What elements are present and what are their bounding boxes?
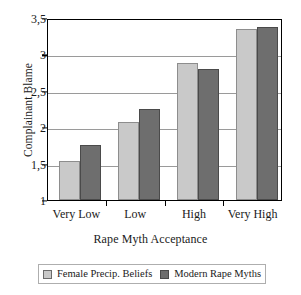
bar (118, 122, 139, 200)
x-axis-tick-mark (106, 201, 107, 206)
bar (80, 145, 101, 200)
y-axis-tick-label: 3,5 (6, 13, 46, 25)
y-axis-tick-label: 3 (6, 49, 46, 61)
y-axis-tick-label: 2 (6, 122, 46, 134)
legend-swatch-dark (160, 270, 169, 279)
plot-area (47, 19, 282, 201)
bar (59, 161, 80, 200)
legend-label: Modern Rape Myths (174, 269, 261, 280)
bar-series-container (48, 20, 281, 200)
bar-group (118, 20, 160, 200)
legend-entry: Female Precip. Beliefs (43, 269, 152, 280)
legend-entry: Modern Rape Myths (160, 269, 261, 280)
x-axis-tick-mark (165, 201, 166, 206)
bar (177, 63, 198, 200)
x-axis-title: Rape Myth Acceptance (0, 232, 301, 247)
x-axis-tick-mark (223, 201, 224, 206)
chart-legend: Female Precip. BeliefsModern Rape Myths (38, 264, 266, 284)
bar-chart-figure: Complainant Blame 11,522,533,5 Very LowL… (0, 0, 301, 295)
x-axis-tick-label: Very High (208, 207, 298, 222)
bar (139, 109, 160, 200)
bar-group (236, 20, 278, 200)
y-axis-tick-label: 1 (6, 195, 46, 207)
legend-swatch-light (43, 270, 52, 279)
bar-group (177, 20, 219, 200)
bar (198, 69, 219, 200)
y-axis-tick-label: 1,5 (6, 159, 46, 171)
bar-group (59, 20, 101, 200)
bar (257, 27, 278, 200)
y-axis-tick-label: 2,5 (6, 86, 46, 98)
legend-label: Female Precip. Beliefs (57, 269, 152, 280)
bar (236, 29, 257, 200)
